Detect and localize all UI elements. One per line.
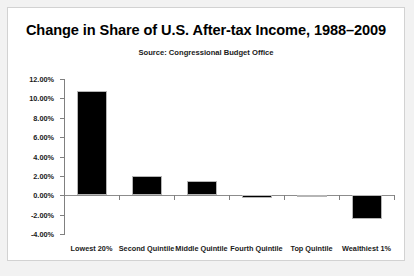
x-axis-category-label: Wealthiest 1% — [342, 244, 391, 253]
y-axis-tick: 2.00% — [60, 176, 65, 177]
y-axis-tick-label: 6.00% — [33, 133, 54, 142]
y-axis-tick-label: -2.00% — [31, 210, 54, 219]
x-axis-category-label: Middle Quintile — [175, 244, 227, 253]
y-axis-tick: 4.00% — [60, 157, 65, 158]
x-axis-tick — [119, 195, 120, 200]
y-axis-tick: 6.00% — [60, 137, 65, 138]
y-axis-tick: 0.00% — [60, 195, 65, 196]
bar — [352, 195, 382, 218]
y-axis-tick-label: 2.00% — [33, 171, 54, 180]
x-axis-category-label: Top Quintile — [290, 244, 332, 253]
y-axis-tick: 8.00% — [60, 118, 65, 119]
x-axis-tick — [394, 195, 395, 200]
y-axis-tick: 10.00% — [60, 98, 65, 99]
y-axis-tick-label: -4.00% — [31, 230, 54, 239]
x-axis-tick — [284, 195, 285, 200]
x-axis-category-label: Lowest 20% — [71, 244, 113, 253]
plot-area: 12.00%10.00%8.00%6.00%4.00%2.00%0.00%-2.… — [64, 72, 394, 240]
y-axis-tick-label: 4.00% — [33, 152, 54, 161]
y-axis-tick-label: 8.00% — [33, 113, 54, 122]
chart-title: Change in Share of U.S. After-tax Income… — [8, 22, 404, 38]
bar — [297, 195, 327, 197]
bar — [242, 195, 272, 198]
bar — [132, 176, 162, 195]
y-axis-tick: -2.00% — [60, 215, 65, 216]
y-axis-tick-label: 0.00% — [33, 191, 54, 200]
x-axis-category-label: Second Quintile — [119, 244, 175, 253]
chart-subtitle: Source: Congressional Budget Office — [8, 48, 404, 57]
y-axis-tick: -4.00% — [60, 234, 65, 235]
bar — [187, 181, 217, 195]
x-axis-category-label: Fourth Quintile — [230, 244, 282, 253]
x-axis-tick — [174, 195, 175, 200]
x-axis-tick — [339, 195, 340, 200]
y-axis-tick-label: 12.00% — [29, 75, 54, 84]
y-axis-tick: 12.00% — [60, 79, 65, 80]
x-axis-tick — [229, 195, 230, 200]
bar — [77, 91, 107, 195]
y-axis-tick-label: 10.00% — [29, 94, 54, 103]
chart-card: Change in Share of U.S. After-tax Income… — [7, 7, 405, 261]
